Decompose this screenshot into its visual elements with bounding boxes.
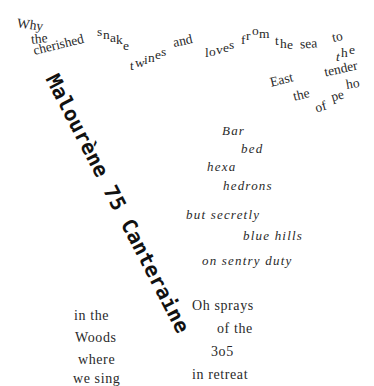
word-from-f: f [241, 33, 246, 47]
word-of-the: of the [217, 322, 253, 336]
word-loves-o: o [209, 45, 216, 59]
word-hedrons: hedrons [223, 179, 273, 192]
word-from-o: o [252, 24, 259, 38]
diagonal-title: Malourène 75 Canteraine [41, 70, 195, 337]
word-in-retreat: in retreat [192, 368, 248, 382]
word-we-sing: we sing [73, 372, 120, 386]
word-but-secretly: but secretly [186, 208, 260, 221]
word-the2-e: e [287, 38, 293, 52]
word-in-the: in the [74, 309, 109, 323]
word-loves-s: s [229, 38, 234, 52]
word-to: to [331, 29, 344, 44]
word-snake-s: s [97, 25, 102, 39]
word-on-sentry-duty: on sentry duty [202, 254, 292, 267]
word-bar: Bar [222, 124, 245, 137]
word-twines-n: n [148, 51, 155, 65]
word-sea: sea [300, 36, 318, 51]
word-the2-h: h [280, 37, 287, 51]
word-east: East [269, 70, 295, 89]
word-and: and [172, 32, 194, 49]
word-the3-h: h [341, 46, 348, 60]
word-the4: the [292, 86, 311, 103]
word-where: where [78, 353, 115, 367]
word-twines-t: t [130, 59, 134, 73]
word-of: of [313, 99, 328, 115]
word-ho: ho [345, 76, 361, 92]
word-the2-t: t [275, 34, 279, 48]
word-blue-hills: blue hills [243, 229, 303, 242]
word-pe: pe [329, 88, 345, 104]
word-hexa: hexa [207, 160, 236, 173]
word-woods: Woods [75, 331, 117, 345]
word-from-r: r [246, 29, 251, 43]
word-3o5: 3o5 [211, 345, 234, 359]
word-oh-sprays: Oh sprays [192, 299, 254, 313]
word-loves-v: v [216, 43, 223, 57]
word-snake-e: e [123, 39, 129, 53]
word-snake-n: n [103, 28, 110, 42]
word-snake-k: k [116, 33, 123, 47]
word-twines-s: s [161, 45, 166, 59]
word-bed: bed [241, 142, 263, 155]
word-from-m: m [259, 27, 270, 41]
word-the3-e: e [349, 43, 355, 57]
